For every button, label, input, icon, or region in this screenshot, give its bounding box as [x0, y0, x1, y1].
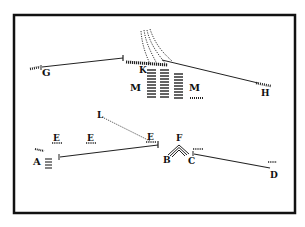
diagram-frame [14, 15, 295, 213]
label-c: C [188, 156, 195, 166]
label-f: F [176, 133, 183, 143]
label-e-1: E [53, 133, 60, 143]
label-m-left: M [130, 82, 141, 93]
label-a: A [32, 156, 41, 167]
label-e-3: E [147, 132, 154, 142]
label-k: K [139, 65, 148, 75]
label-e-2: E [87, 133, 94, 143]
label-d: D [270, 170, 278, 180]
diagram-canvas: G K H M M L [0, 0, 305, 227]
label-b: B [163, 155, 171, 165]
label-m-right: M [189, 82, 200, 93]
label-g: G [42, 67, 51, 78]
label-l: L [97, 110, 104, 120]
label-h: H [261, 88, 270, 98]
